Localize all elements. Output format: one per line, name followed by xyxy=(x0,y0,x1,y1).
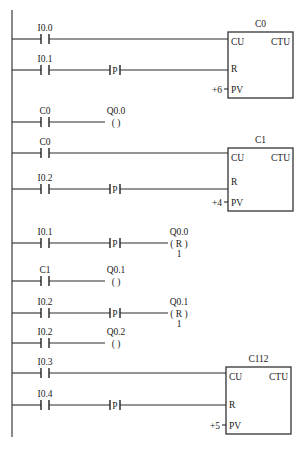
preset-value: +4 xyxy=(212,198,222,208)
counter-type-label: CTU xyxy=(271,153,290,163)
coil-label: Q0.2 xyxy=(107,327,126,337)
contact-label: I0.1 xyxy=(37,54,52,64)
coil-label: Q0.1 xyxy=(107,265,126,275)
contact-label: I0.3 xyxy=(37,357,52,367)
pin-pv-label: PV xyxy=(231,198,243,208)
coil-count: 1 xyxy=(177,249,182,259)
contact-label: C0 xyxy=(39,137,50,147)
positive-edge-label: P xyxy=(112,185,117,195)
preset-value: +6 xyxy=(212,85,222,95)
coil-icon: ( R ) xyxy=(170,309,187,320)
contact-label: I0.4 xyxy=(37,389,52,399)
counter-name: C112 xyxy=(248,354,268,364)
counter-type-label: CTU xyxy=(269,372,288,382)
counter-name: C1 xyxy=(255,135,266,145)
coil-label: Q0.1 xyxy=(170,297,189,307)
coil-icon: ( ) xyxy=(112,277,121,288)
positive-edge-label: P xyxy=(112,401,117,411)
coil-icon: ( ) xyxy=(112,339,121,350)
positive-edge-label: P xyxy=(112,309,117,319)
positive-edge-label: P xyxy=(112,66,117,76)
coil-label: Q0.0 xyxy=(107,106,126,116)
pin-r-label: R xyxy=(231,64,238,74)
coil-count: 1 xyxy=(177,319,182,329)
contact-label: C1 xyxy=(39,265,50,275)
pin-pv-label: PV xyxy=(229,421,241,431)
counter-type-label: CTU xyxy=(271,37,290,47)
counter-name: C0 xyxy=(255,19,266,29)
ladder-diagram: C0CUCTURPV+6C1CUCTURPV+4C112CUCTURPV+5I0… xyxy=(0,0,302,449)
pin-pv-label: PV xyxy=(231,85,243,95)
pin-cu-label: CU xyxy=(229,372,242,382)
preset-value: +5 xyxy=(210,421,220,431)
contact-label: I0.2 xyxy=(37,327,52,337)
contact-label: I0.2 xyxy=(37,297,52,307)
contact-label: C0 xyxy=(39,106,50,116)
coil-icon: ( ) xyxy=(112,118,121,129)
pin-r-label: R xyxy=(229,400,236,410)
contact-label: I0.1 xyxy=(37,227,52,237)
contact-label: I0.2 xyxy=(37,173,52,183)
coil-icon: ( R ) xyxy=(170,239,187,250)
pin-r-label: R xyxy=(231,177,238,187)
pin-cu-label: CU xyxy=(231,37,244,47)
coil-label: Q0.0 xyxy=(170,227,189,237)
contact-label: I0.0 xyxy=(37,23,52,33)
pin-cu-label: CU xyxy=(231,153,244,163)
positive-edge-label: P xyxy=(112,239,117,249)
